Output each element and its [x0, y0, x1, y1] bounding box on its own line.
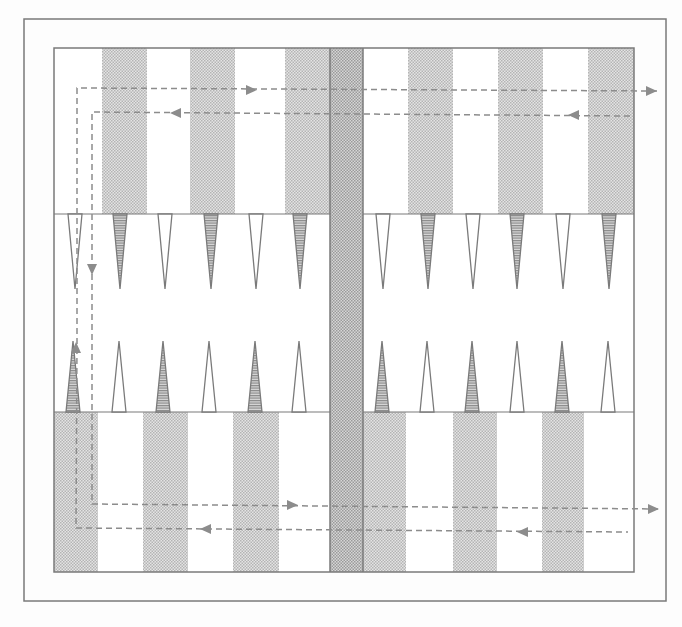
backgammon-board-diagram — [0, 0, 682, 627]
bottom-stripe — [143, 412, 188, 572]
arrow-right-icon — [648, 504, 659, 514]
top-stripe — [102, 48, 147, 214]
bottom-stripe — [453, 412, 497, 572]
top-stripe — [408, 48, 453, 214]
top-stripe — [498, 48, 543, 214]
top-stripe — [588, 48, 634, 214]
bottom-stripe — [363, 412, 406, 572]
bar-fill — [330, 48, 363, 572]
top-stripe — [285, 48, 330, 214]
bottom-stripe — [542, 412, 584, 572]
bottom-stripe — [233, 412, 279, 572]
top-stripe — [190, 48, 235, 214]
arrow-right-icon — [646, 86, 657, 96]
stripes — [54, 48, 634, 572]
